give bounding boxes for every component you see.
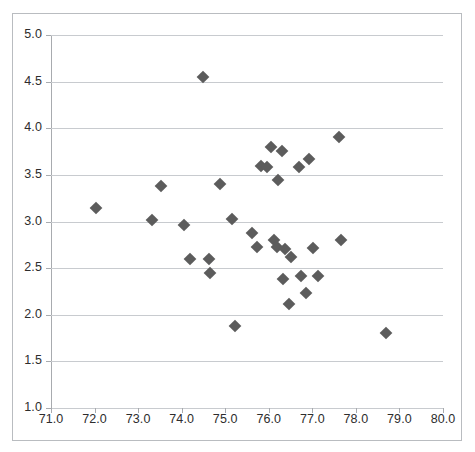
x-tick-label: 74.0 <box>169 412 194 426</box>
y-tick-mark <box>46 175 51 176</box>
x-tick-label: 73.0 <box>126 412 151 426</box>
y-tick-label: 3.0 <box>24 214 42 228</box>
y-tick-label: 2.5 <box>24 260 42 274</box>
gridline <box>51 268 443 269</box>
data-point <box>228 320 241 333</box>
gridline <box>51 408 443 409</box>
x-axis-tick-labels: 71.072.073.074.075.076.077.078.079.080.0 <box>51 412 443 434</box>
gridline <box>51 35 443 36</box>
y-tick-label: 3.5 <box>24 167 42 181</box>
plot-area <box>51 35 443 408</box>
data-point <box>184 252 197 265</box>
y-tick-mark <box>46 222 51 223</box>
gridline <box>51 222 443 223</box>
data-point <box>214 178 227 191</box>
x-tick-label: 76.0 <box>256 412 281 426</box>
data-point <box>300 287 313 300</box>
x-tick-label: 79.0 <box>387 412 412 426</box>
data-point <box>146 213 159 226</box>
gridline <box>51 82 443 83</box>
data-point <box>89 202 102 215</box>
data-point <box>251 240 264 253</box>
y-tick-mark <box>46 128 51 129</box>
y-axis-tick-labels: 1.01.52.02.53.03.54.04.55.0 <box>0 35 42 408</box>
y-tick-label: 2.0 <box>24 307 42 321</box>
gridline <box>51 361 443 362</box>
data-point <box>307 241 320 254</box>
y-tick-mark <box>46 315 51 316</box>
x-tick-label: 71.0 <box>39 412 64 426</box>
data-point <box>154 180 167 193</box>
data-point <box>226 212 239 225</box>
x-tick-label: 80.0 <box>431 412 456 426</box>
y-tick-label: 5.0 <box>24 27 42 41</box>
data-point <box>335 234 348 247</box>
y-tick-label: 4.5 <box>24 74 42 88</box>
data-point <box>293 161 306 174</box>
gridline <box>51 315 443 316</box>
chart-title <box>0 0 475 11</box>
data-point <box>276 273 289 286</box>
data-point <box>302 153 315 166</box>
y-tick-mark <box>46 268 51 269</box>
x-tick-label: 77.0 <box>300 412 325 426</box>
y-tick-mark <box>46 82 51 83</box>
data-point <box>379 327 392 340</box>
data-point <box>246 226 259 239</box>
x-tick-label: 78.0 <box>344 412 369 426</box>
data-point <box>202 252 215 265</box>
gridline <box>51 128 443 129</box>
y-tick-mark <box>46 35 51 36</box>
data-point <box>282 297 295 310</box>
x-tick-label: 72.0 <box>82 412 107 426</box>
y-tick-mark <box>46 361 51 362</box>
gridline <box>51 175 443 176</box>
x-tick-label: 75.0 <box>213 412 238 426</box>
data-point <box>333 130 346 143</box>
scatter-chart-figure: 1.01.52.02.53.03.54.04.55.0 71.072.073.0… <box>0 0 475 452</box>
data-point <box>272 174 285 187</box>
data-point <box>295 269 308 282</box>
y-tick-label: 1.5 <box>24 353 42 367</box>
y-tick-label: 4.0 <box>24 120 42 134</box>
data-point <box>312 269 325 282</box>
